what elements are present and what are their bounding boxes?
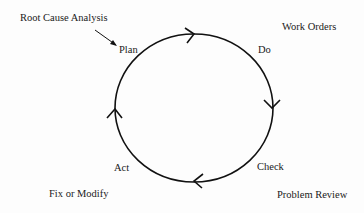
pdca-diagram: Root Cause Analysis Plan Work Orders Do …: [0, 0, 364, 213]
stage-plan-label: Plan: [119, 44, 138, 56]
work-orders-label: Work Orders: [282, 21, 336, 33]
stage-check-label: Check: [257, 161, 284, 173]
stage-act-label: Act: [114, 162, 129, 174]
stage-do-label: Do: [258, 44, 271, 56]
cycle-ellipse: [115, 34, 273, 182]
root-cause-analysis-label: Root Cause Analysis: [20, 12, 108, 24]
fix-or-modify-label: Fix or Modify: [49, 188, 109, 200]
pointer-arrow-icon: [95, 30, 117, 46]
arrow-right-icon: [185, 28, 194, 43]
problem-review-label: Problem Review: [277, 189, 347, 201]
